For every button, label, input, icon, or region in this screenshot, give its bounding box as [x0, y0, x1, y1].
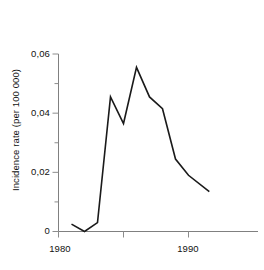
x-axis-ticks — [59, 232, 189, 238]
x-axis — [59, 232, 259, 238]
y-axis — [53, 54, 59, 232]
y-axis-ticks — [53, 54, 59, 232]
data-series-line — [72, 67, 210, 231]
plot-area — [0, 0, 264, 270]
chart-figure: Incidence rate (per 100 000) 0,06 0,04 0… — [0, 0, 264, 270]
